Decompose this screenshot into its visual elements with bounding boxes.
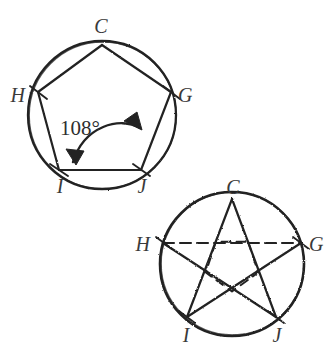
- pentagram-chord-G-I: [187, 243, 301, 317]
- pentagram-chord-C-I: [187, 199, 232, 317]
- pentagram-vertex-label-I: I: [182, 324, 191, 346]
- sketch-canvas: 108° C G J I H: [0, 0, 335, 352]
- pentagon-circle-group: [28, 41, 176, 189]
- geometry-sketch-figure: 108° C G J I H: [0, 0, 335, 352]
- pentagon-edge-G-J: [141, 92, 171, 170]
- angle-label-108: 108°: [60, 116, 100, 140]
- pentagon-edges-group: [38, 45, 171, 170]
- pentagram-circle-group: [160, 192, 304, 336]
- angle-arrowhead-toward-I: [66, 149, 84, 165]
- pentagram-vertex-label-C: C: [226, 176, 240, 198]
- pentagon-vertex-label-H: H: [10, 84, 27, 106]
- pentagon-vertex-label-C: C: [94, 15, 108, 37]
- pentagram-solid-chords: [163, 199, 301, 317]
- pentagon-in-circle-diagram: 108° C G J I H: [10, 15, 193, 197]
- pentagon-vertex-label-I: I: [56, 175, 65, 197]
- pentagram-in-circle-diagram: C G J I H: [135, 176, 324, 346]
- pentagram-vertex-label-J: J: [273, 324, 283, 346]
- pentagon-vertex-label-G: G: [178, 84, 193, 106]
- pentagram-inner-pentagon-dashed: [206, 242, 258, 292]
- pentagram-vertex-label-G: G: [309, 233, 324, 255]
- pentagon-edge-H-C: [38, 45, 102, 92]
- pentagram-chord-H-J: [163, 243, 276, 317]
- pentagon-vertex-label-J: J: [138, 175, 148, 197]
- pentagram-vertex-label-H: H: [135, 233, 152, 255]
- pentagram-dashed-chords: [163, 242, 301, 292]
- angle-arrowhead-toward-J: [124, 112, 142, 130]
